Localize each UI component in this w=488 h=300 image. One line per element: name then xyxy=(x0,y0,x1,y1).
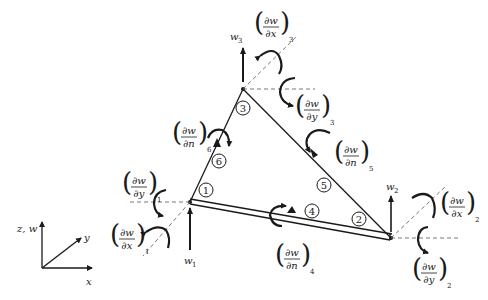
label-w2: w 2 xyxy=(386,181,398,195)
svg-text:3: 3 xyxy=(238,37,242,45)
svg-text:5: 5 xyxy=(369,165,373,173)
svg-text:∂w: ∂w xyxy=(422,261,436,272)
svg-text:(: ( xyxy=(275,239,285,269)
node-label-3: 3 xyxy=(236,101,250,115)
rotation-dwdx3-icon xyxy=(260,51,282,74)
svg-text:∂y: ∂y xyxy=(134,188,145,199)
y-axis-arrow xyxy=(42,238,81,268)
svg-text:(: ( xyxy=(122,167,132,197)
svg-text:(: ( xyxy=(295,90,305,120)
svg-text:∂w: ∂w xyxy=(182,125,196,136)
node-label-2: 2 xyxy=(352,212,366,226)
normal-marker-4 xyxy=(287,206,296,213)
svg-text:∂x: ∂x xyxy=(122,240,133,251)
svg-text:): ) xyxy=(321,90,331,120)
svg-text:2: 2 xyxy=(475,216,479,224)
svg-text:1: 1 xyxy=(145,248,149,256)
svg-text:2: 2 xyxy=(394,187,398,195)
svg-text:∂n: ∂n xyxy=(183,138,195,149)
svg-text:2: 2 xyxy=(356,214,362,225)
x-axis-label: x xyxy=(86,276,92,287)
label-dwdx2: ( ∂w ∂x ) 2 xyxy=(440,187,479,224)
svg-text:∂x: ∂x xyxy=(266,28,277,39)
svg-text:∂w: ∂w xyxy=(450,195,464,206)
label-dwdn5: ( ∂w ∂n ) 5 xyxy=(334,136,373,173)
svg-text:(: ( xyxy=(254,7,264,37)
svg-text:∂y: ∂y xyxy=(424,274,435,285)
svg-text:∂w: ∂w xyxy=(305,98,319,109)
svg-text:(: ( xyxy=(110,219,120,249)
label-dwdy2: ( ∂w ∂y ) 2 xyxy=(412,253,451,290)
svg-text:): ) xyxy=(136,219,146,249)
node-label-6: 6 xyxy=(212,154,226,168)
rotation-dwdx1-icon xyxy=(146,227,169,248)
svg-text:6: 6 xyxy=(207,146,212,154)
svg-text:∂n: ∂n xyxy=(345,157,357,168)
label-dwdx1: ( ∂w ∂x ) 1 xyxy=(110,219,149,256)
svg-text:(: ( xyxy=(412,253,422,283)
svg-text:∂w: ∂w xyxy=(344,144,358,155)
svg-text:1: 1 xyxy=(157,196,161,204)
label-dwdn4: ( ∂w ∂n ) 4 xyxy=(275,239,315,276)
coordinate-axes: z, w x y xyxy=(16,222,92,287)
svg-text:∂w: ∂w xyxy=(264,15,278,26)
svg-text:4: 4 xyxy=(309,206,315,217)
svg-text:2: 2 xyxy=(447,282,451,290)
svg-text:): ) xyxy=(466,187,476,217)
label-w3: w 3 xyxy=(230,31,242,45)
rotation-dwdy2-icon xyxy=(418,227,428,253)
svg-text:): ) xyxy=(148,167,158,197)
svg-text:): ) xyxy=(360,136,370,166)
svg-text:3: 3 xyxy=(240,103,246,114)
node-label-1: 1 xyxy=(199,183,213,197)
svg-text:3: 3 xyxy=(289,36,293,44)
svg-text:4: 4 xyxy=(310,268,315,276)
svg-text:∂y: ∂y xyxy=(307,111,318,122)
svg-text:∂w: ∂w xyxy=(120,227,134,238)
svg-text:(: ( xyxy=(172,117,182,147)
z-w-axis-label: z, w xyxy=(16,223,38,234)
svg-text:1: 1 xyxy=(203,185,209,196)
normal-marker-5 xyxy=(310,148,318,158)
label-dwdx3: ( ∂w ∂x ) 3 xyxy=(254,7,293,44)
svg-text:∂w: ∂w xyxy=(285,247,299,258)
svg-text:): ) xyxy=(280,7,290,37)
plate-element-diagram: 3 6 1 5 4 2 w 3 w 1 w 2 ( ∂w ∂x ) 3 xyxy=(0,0,488,300)
svg-text:(: ( xyxy=(334,136,344,166)
node-label-4: 4 xyxy=(305,204,319,218)
svg-text:3: 3 xyxy=(330,119,334,127)
svg-text:): ) xyxy=(301,239,311,269)
svg-text:): ) xyxy=(438,253,448,283)
rotation-dwdn5-icon xyxy=(307,130,331,152)
svg-text:∂n: ∂n xyxy=(286,260,298,271)
y-axis-label: y xyxy=(83,232,90,243)
svg-text:1: 1 xyxy=(192,261,196,269)
svg-text:(: ( xyxy=(440,187,450,217)
node-label-5: 5 xyxy=(317,178,331,192)
label-dwdy3: ( ∂w ∂y ) 3 xyxy=(295,90,334,127)
rotation-dwdx2-icon xyxy=(412,194,435,218)
svg-text:): ) xyxy=(198,117,208,147)
label-w1: w 1 xyxy=(184,255,196,269)
svg-text:∂x: ∂x xyxy=(452,208,463,219)
label-dwdn6: ( ∂w ∂n ) 6 xyxy=(172,117,212,154)
rotation-dwdy3-icon xyxy=(280,78,295,106)
svg-text:∂w: ∂w xyxy=(132,175,146,186)
rotation-dwdn4-icon xyxy=(270,206,286,226)
svg-text:5: 5 xyxy=(321,180,327,191)
svg-text:6: 6 xyxy=(216,156,222,167)
